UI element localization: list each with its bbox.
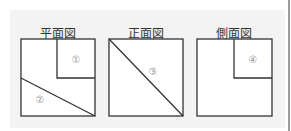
- label-2: ②: [36, 94, 45, 105]
- label-1: ①: [72, 54, 81, 65]
- label-4: ④: [249, 54, 258, 65]
- label-3: ③: [149, 66, 158, 77]
- orthographic-views: ① ② ③ ④: [0, 0, 291, 131]
